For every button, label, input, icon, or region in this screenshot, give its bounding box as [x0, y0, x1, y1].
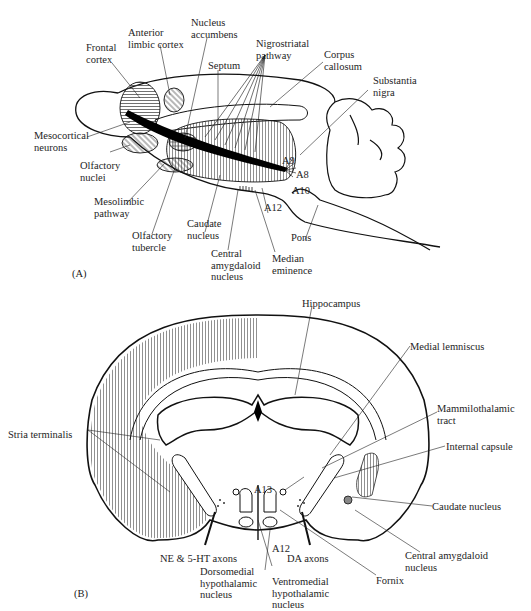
label-median-eminence: Median eminence	[272, 253, 312, 276]
label-a12-a: A12	[264, 202, 282, 214]
caudate-nucleus-coronal	[357, 453, 379, 497]
label-dorsomedial-hypothalamic-nucleus: Dorsomedial hypothalamic nucleus	[200, 566, 257, 601]
label-ne-5ht-axons: NE & 5-HT axons	[160, 553, 237, 565]
label-hippocampus: Hippocampus	[302, 298, 360, 310]
label-anterior-limbic-cortex: Anterior limbic cortex	[128, 27, 184, 50]
central-amygdaloid-circle	[344, 496, 352, 504]
label-nigrostriatal-pathway: Nigrostriatal pathway	[256, 38, 309, 61]
label-medial-lemniscus: Medial lemniscus	[410, 341, 484, 353]
olfactory-nuclei-region	[122, 133, 158, 153]
label-central-amygdaloid-nucleus-a: Central amygdaloid nucleus	[211, 248, 261, 283]
label-corpus-callosum: Corpus callosum	[324, 49, 362, 72]
label-septum: Septum	[208, 60, 240, 72]
label-central-amygdaloid-nucleus-b: Central amygdaloid nucleus	[405, 550, 488, 573]
label-caudate-nucleus: Caudate nucleus	[187, 218, 221, 241]
panel-a-tag: (A)	[72, 268, 87, 279]
label-da-axons: DA axons	[287, 553, 329, 565]
label-substantia-nigra: Substantia nigra	[373, 75, 417, 98]
label-mesocortical-neurons: Mesocortical neurons	[34, 130, 89, 153]
label-a8: A8	[296, 169, 309, 181]
label-mesolimbic-pathway: Mesolimbic pathway	[94, 196, 144, 219]
label-olfactory-nuclei: Olfactory nuclei	[80, 160, 120, 183]
label-olfactory-tubercle: Olfactory tubercle	[132, 230, 172, 253]
olfactory-tubercle-region	[157, 158, 193, 172]
label-mammilothalamic-tract: Mammilothalamic tract	[437, 403, 515, 426]
anterior-limbic-cortex-region	[164, 88, 184, 112]
label-frontal-cortex: Frontal cortex	[86, 42, 116, 65]
label-fornix: Fornix	[376, 575, 404, 587]
label-caudate-nucleus-b: Caudate nucleus	[432, 501, 501, 513]
label-a13: A13	[254, 484, 272, 496]
label-a10: A10	[292, 185, 310, 197]
label-nucleus-accumbens: Nucleus accumbens	[191, 17, 238, 40]
label-a9: A9	[282, 155, 295, 167]
label-stria-terminalis: Stria terminalis	[8, 429, 72, 441]
axon-stipple	[217, 499, 305, 507]
label-pons: Pons	[291, 232, 311, 244]
label-internal-capsule: Internal capsule	[446, 441, 513, 453]
panel-b-tag: (B)	[74, 588, 88, 599]
cerebellum-outline	[327, 99, 405, 198]
label-ventromedial-hypothalamic-nucleus: Ventromedial hypothalamic nucleus	[272, 576, 329, 611]
